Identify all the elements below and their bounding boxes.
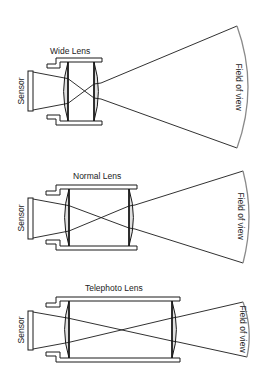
lens-housing-top: [46, 185, 137, 195]
fov-ray-top: [178, 302, 243, 317]
light-ray-2: [33, 317, 178, 349]
image-sensor: [28, 198, 33, 239]
fov-ray-bottom: [178, 342, 247, 357]
normal-geometry: [28, 171, 249, 263]
light-ray-1: [33, 312, 178, 342]
telephoto-fov-label: Field of view: [238, 305, 248, 353]
telephoto-sensor-label: Sensor: [16, 316, 26, 343]
fov-ray-bottom: [101, 99, 237, 148]
light-ray-2: [33, 205, 135, 238]
normal-fov-label: Field of view: [236, 192, 246, 240]
wide-fov-label: Field of view: [234, 63, 244, 111]
wide-sensor-label: Sensor: [16, 77, 26, 104]
normal-sensor-label: Sensor: [16, 204, 26, 231]
telephoto-lens-title: Telephoto Lens: [85, 283, 143, 293]
image-sensor: [28, 311, 33, 350]
camera-lens-fov-diagram: Wide LensSensorField of view Normal Lens…: [0, 0, 267, 387]
lens-housing-bottom: [46, 240, 137, 250]
wide-lens-diagram: Wide LensSensorField of view: [16, 26, 248, 148]
fov-ray-top: [135, 171, 243, 205]
telephoto-lens-diagram: Telephoto LensSensorField of view: [16, 283, 249, 362]
wide-geometry: [28, 26, 248, 148]
normal-lens-title: Normal Lens: [73, 171, 121, 181]
fov-ray-top: [101, 26, 237, 83]
normal-lens-diagram: Normal LensSensorField of view: [16, 171, 249, 263]
fov-ray-bottom: [135, 229, 243, 263]
image-sensor: [28, 71, 33, 111]
lens-housing-bottom: [46, 352, 180, 362]
telephoto-geometry: [28, 297, 249, 362]
wide-lens-title: Wide Lens: [50, 46, 90, 56]
lens-housing-top: [46, 297, 180, 307]
